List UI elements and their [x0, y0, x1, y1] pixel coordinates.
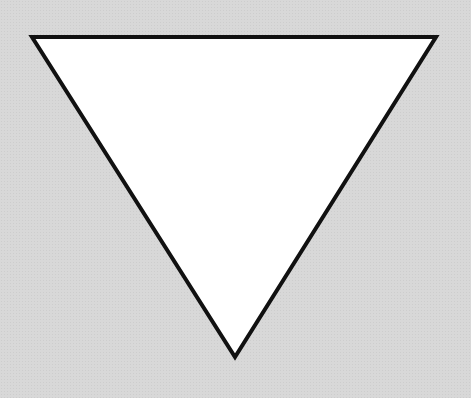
triangle-diagram — [0, 0, 471, 398]
canvas-background — [0, 0, 471, 398]
inverted-triangle-shape — [32, 37, 436, 357]
